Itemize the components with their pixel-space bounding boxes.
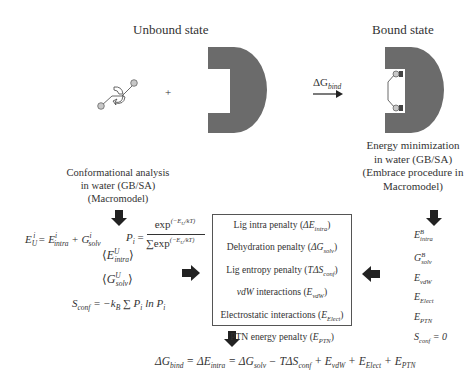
box-item-lig-entropy: Lig entropy penalty (TΔSconf) — [213, 261, 351, 283]
math-token: solv — [254, 361, 266, 370]
bound-term: Sconf = 0 — [414, 329, 447, 349]
eu-equation: EUi = Eiintra + Gisolv — [25, 231, 101, 248]
bound-energy-terms: EBintra GBsolv EvdW EElect EPTN Sconf = … — [414, 224, 447, 348]
math-token: solv — [421, 258, 431, 265]
math-token: conf — [323, 270, 334, 277]
math-token: conf — [78, 303, 91, 312]
math-token: B — [421, 251, 425, 258]
math-token: intra — [420, 235, 433, 242]
math-token: vdW — [332, 361, 345, 370]
down-arrow-left-icon — [111, 210, 127, 226]
math-token: i — [140, 303, 142, 312]
caption-line: (Embrace procedure in — [355, 166, 471, 180]
math-token: /kT) — [185, 217, 195, 224]
math-token: i — [33, 231, 35, 240]
caption-line: Macromodel) — [355, 180, 471, 194]
ligand-atom — [98, 103, 105, 110]
math-token: Elect — [366, 361, 381, 370]
math-token: ΔG — [155, 355, 170, 367]
ligand-bond — [388, 74, 395, 108]
binding-site-residue — [399, 71, 403, 77]
math-token: solv — [89, 239, 101, 248]
box-item-vdw: vdW interactions (EvdW) — [213, 283, 351, 305]
math-token: conf — [419, 337, 430, 344]
math-token: ⟩ — [129, 248, 134, 262]
math-token: + E — [381, 355, 402, 367]
math-token: = E — [38, 233, 55, 245]
math-token: intra — [54, 239, 69, 248]
math-token: PTN energy penalty ( — [230, 331, 313, 342]
reaction-arrow-icon — [312, 88, 344, 100]
math-token: ) — [335, 264, 338, 275]
math-token: + E — [345, 355, 366, 367]
math-token: vdW — [420, 278, 432, 285]
math-token: U — [32, 239, 37, 248]
math-token: /kT) — [184, 236, 194, 243]
math-token: intra — [315, 225, 328, 232]
math-token: ln P — [145, 297, 163, 309]
math-token: PTN — [319, 337, 331, 344]
pi-lhs: Pi = — [126, 231, 144, 246]
caption-line: in water (GB/SA) — [355, 153, 471, 167]
conformational-analysis-caption: Conformational analysis in water (GB/SA)… — [48, 166, 188, 205]
math-token: = ΔE — [183, 355, 210, 367]
rotation-arrow-icon — [113, 96, 125, 105]
math-token: ) — [324, 286, 327, 297]
bound-state-title: Bound state — [372, 22, 434, 38]
math-token: + E — [311, 355, 332, 367]
math-token: intra — [211, 361, 226, 370]
avg-e-intra: ⟨EUintra⟩ — [102, 247, 134, 264]
math-token: exp — [154, 237, 170, 249]
math-token: PTN — [420, 317, 432, 324]
energy-terms-box: Lig intra penalty (ΔEintra) Dehydration … — [212, 214, 352, 326]
delta-g-symbol: ΔG — [313, 76, 328, 88]
protein-unbound-icon — [206, 45, 268, 135]
math-token: B — [116, 303, 121, 312]
left-arrow-icon — [362, 266, 380, 282]
math-token: intra — [114, 255, 129, 264]
math-token: = 0 — [430, 331, 447, 342]
math-token: solv — [116, 279, 128, 288]
math-token: PTN — [402, 361, 416, 370]
math-token: conf — [298, 361, 311, 370]
protein-shape — [208, 47, 267, 133]
math-token: bind — [170, 361, 183, 370]
math-token: ⟩ — [128, 272, 133, 286]
sconf-equation: Sconf = −kB ∑ Pi ln Pi — [72, 297, 165, 312]
bound-term: EvdW — [414, 270, 447, 290]
math-token: ) — [340, 309, 343, 320]
math-token: Elect — [327, 315, 340, 322]
math-token: (−E — [170, 236, 181, 243]
math-token: ΔG — [311, 241, 324, 252]
math-token: ) — [327, 219, 330, 230]
ligand-atom — [393, 71, 399, 77]
bound-term: EPTN — [414, 309, 447, 329]
caption-line: in water (GB/SA) — [48, 179, 188, 192]
math-token: Electrostatic interactions ( — [220, 309, 321, 320]
plus-sign: + — [165, 86, 171, 98]
unbound-state-title: Unbound state — [133, 22, 208, 38]
math-token: Dehydration penalty ( — [227, 241, 311, 252]
right-arrow-icon — [182, 265, 200, 281]
pi-denominator: ∑exp(−EU/kT) — [146, 236, 208, 249]
math-token: E — [25, 233, 32, 245]
box-item-electrostatic: Electrostatic interactions (EElect) — [213, 306, 351, 328]
math-token: B — [420, 228, 424, 235]
math-token: + G — [71, 233, 89, 245]
math-token: ΔE — [303, 219, 315, 230]
math-token: i — [133, 237, 135, 246]
fraction-bar — [147, 234, 205, 235]
math-token: TΔS — [308, 264, 324, 275]
ligand-atom — [131, 80, 138, 87]
caption-line: Energy minimization — [355, 139, 471, 153]
protein-shape — [385, 47, 444, 133]
math-token: ∑ — [123, 297, 131, 309]
math-token: = ΔG — [225, 355, 254, 367]
math-token: ) — [334, 241, 337, 252]
math-token: Lig entropy penalty ( — [226, 264, 307, 275]
math-token: P — [126, 231, 133, 243]
math-token: interactions ( — [254, 286, 307, 297]
math-token: i — [163, 303, 165, 312]
final-binding-equation: ΔGbind = ΔEintra = ΔGsolv − TΔSconf + Ev… — [155, 355, 415, 370]
box-item-dehydration: Dehydration penalty (ΔGsolv) — [213, 238, 351, 260]
